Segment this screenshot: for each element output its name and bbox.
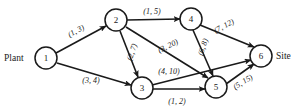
plant-label: Plant <box>4 53 24 63</box>
site-label: Site <box>276 51 291 61</box>
node-3-label: 3 <box>140 83 145 93</box>
edge-label-2-4: (1, 5) <box>143 7 161 16</box>
edge-label-5-6: (5, 15) <box>232 72 255 91</box>
node-1-label: 1 <box>44 53 49 63</box>
node-2-label: 2 <box>114 15 119 25</box>
edge-label-2-5: (3, 20) <box>156 37 179 55</box>
edge-label-3-5: (1, 2) <box>168 97 186 106</box>
edge-label-1-3: (3, 4) <box>82 76 100 85</box>
edge-label-3-6: (4, 10) <box>158 67 180 76</box>
network-diagram-canvas: 1 2 3 4 5 6 Plant Site (1, 3) (3, 4) (1,… <box>0 0 302 108</box>
edge-label-2-3: (2, 7) <box>125 42 139 62</box>
edge-2-to-4 <box>127 19 180 20</box>
edge-label-1-2: (1, 3) <box>66 23 86 39</box>
node-5-label: 5 <box>214 82 219 92</box>
node-4-label: 4 <box>189 14 194 24</box>
edge-label-4-6: (7, 12) <box>212 17 235 35</box>
network-diagram-svg: 1 2 3 4 5 6 Plant Site (1, 3) (3, 4) (1,… <box>0 0 302 108</box>
node-6-label: 6 <box>259 51 264 61</box>
